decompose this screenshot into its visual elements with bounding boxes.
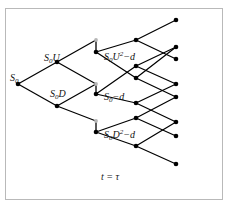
lattice-node-ghost [94, 38, 98, 42]
lattice-edge-down [136, 103, 176, 122]
lattice-node [174, 95, 179, 100]
lattice-edge-down [57, 62, 96, 84]
lattice-node-ghost [94, 119, 98, 123]
lattice-node [174, 134, 179, 139]
label-s0u2-minus-d: S0U2−d [104, 52, 135, 62]
label-s0d: S0D [50, 89, 66, 99]
lattice-node [134, 76, 139, 81]
time-axis-label: t = τ [101, 172, 119, 182]
lattice-node [174, 120, 179, 125]
lattice-node [55, 104, 60, 109]
lattice-node [174, 18, 179, 23]
lattice-node [174, 57, 179, 62]
node-layer [16, 18, 179, 167]
lattice-node [94, 130, 99, 135]
lattice-edge-up [96, 66, 136, 94]
lattice-node [94, 92, 99, 97]
lattice-node-ghost [94, 82, 98, 86]
label-s0: S0 [10, 73, 19, 83]
lattice-node [134, 64, 139, 69]
lattice-edge-down [57, 106, 96, 121]
label-s0u: S0U [44, 53, 60, 63]
label-s0-minus-d: S0−d [104, 92, 124, 102]
lattice-node [174, 162, 179, 167]
label-s0d2-minus-d: S0D2−d [104, 130, 135, 140]
lattice-node [174, 82, 179, 87]
lattice-node [134, 144, 139, 149]
lattice-node [174, 45, 179, 50]
lattice-node [94, 50, 99, 55]
lattice-edge-up [18, 62, 57, 84]
lattice-node [134, 116, 139, 121]
lattice-edge-up [136, 122, 176, 146]
lattice-node [134, 38, 139, 43]
lattice-edge-down [136, 146, 176, 164]
lattice-edge-up [57, 40, 96, 62]
lattice-node [134, 101, 139, 106]
lattice-edge-up [136, 20, 176, 40]
figure-root: S0 S0U S0D S0U2−d S0−d S0D2−d t = τ [0, 0, 231, 208]
